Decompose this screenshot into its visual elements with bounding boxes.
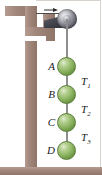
tension-subscript-T1: 1 (87, 82, 91, 90)
rope-segment-pulley-to-A (66, 19, 68, 58)
sphere-B (57, 85, 76, 104)
tension-subscript-T2: 2 (87, 110, 91, 118)
sphere-label-A: A (43, 61, 55, 72)
sphere-label-B: B (43, 89, 55, 100)
wall-slot-gap (13, 36, 46, 41)
sphere-label-D: D (43, 145, 55, 156)
tension-subscript-T3: 3 (87, 138, 91, 146)
tension-label-T3: T3 (81, 132, 91, 148)
sphere-A (57, 57, 76, 76)
sphere-label-C: C (43, 117, 55, 128)
sphere-C (57, 113, 76, 132)
sphere-D (57, 141, 76, 160)
applied-force-arrow-icon (44, 7, 58, 13)
physics-figure-pulley-spheres: A B C D T1 T2 T3 (0, 0, 102, 175)
floor-strip (0, 167, 102, 175)
tension-label-T2: T2 (81, 104, 91, 120)
tension-label-T1: T1 (81, 76, 91, 92)
